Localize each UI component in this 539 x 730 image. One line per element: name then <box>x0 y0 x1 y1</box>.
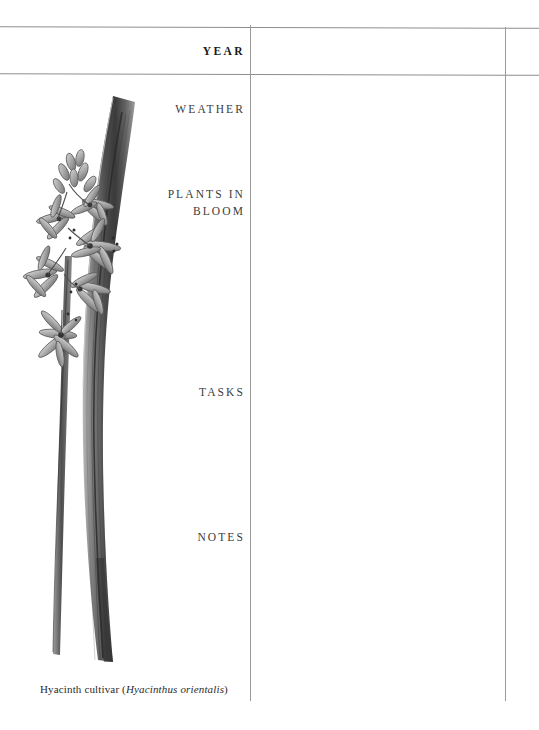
label-tasks: TASKS <box>199 384 245 401</box>
hyacinth-illustration-svg <box>14 88 189 673</box>
flower-star-6 <box>36 309 83 368</box>
write-area-notes[interactable] <box>251 513 505 700</box>
flower-bud-cluster <box>51 149 98 195</box>
flower-star-4 <box>23 245 66 300</box>
caption-common-name: Hyacinth cultivar ( <box>40 683 126 695</box>
write-area-plants-in-bloom[interactable] <box>251 176 505 366</box>
write-area-tasks[interactable] <box>251 367 505 512</box>
journal-page: YEAR WEATHER PLANTS IN BLOOM TASKS NOTES <box>0 0 539 730</box>
hyacinth-illustration <box>14 88 189 673</box>
write-area-weather[interactable] <box>251 75 505 175</box>
flower-star-2 <box>36 194 77 242</box>
caption-close-paren: ) <box>224 683 228 695</box>
label-year: YEAR <box>203 43 245 60</box>
write-area-year[interactable] <box>251 28 505 74</box>
illustration-caption: Hyacinth cultivar (Hyacinthus orientalis… <box>40 683 228 695</box>
write-area-margin[interactable] <box>506 28 539 700</box>
caption-scientific-name: Hyacinthus orientalis <box>126 683 224 695</box>
label-notes: NOTES <box>197 529 245 546</box>
